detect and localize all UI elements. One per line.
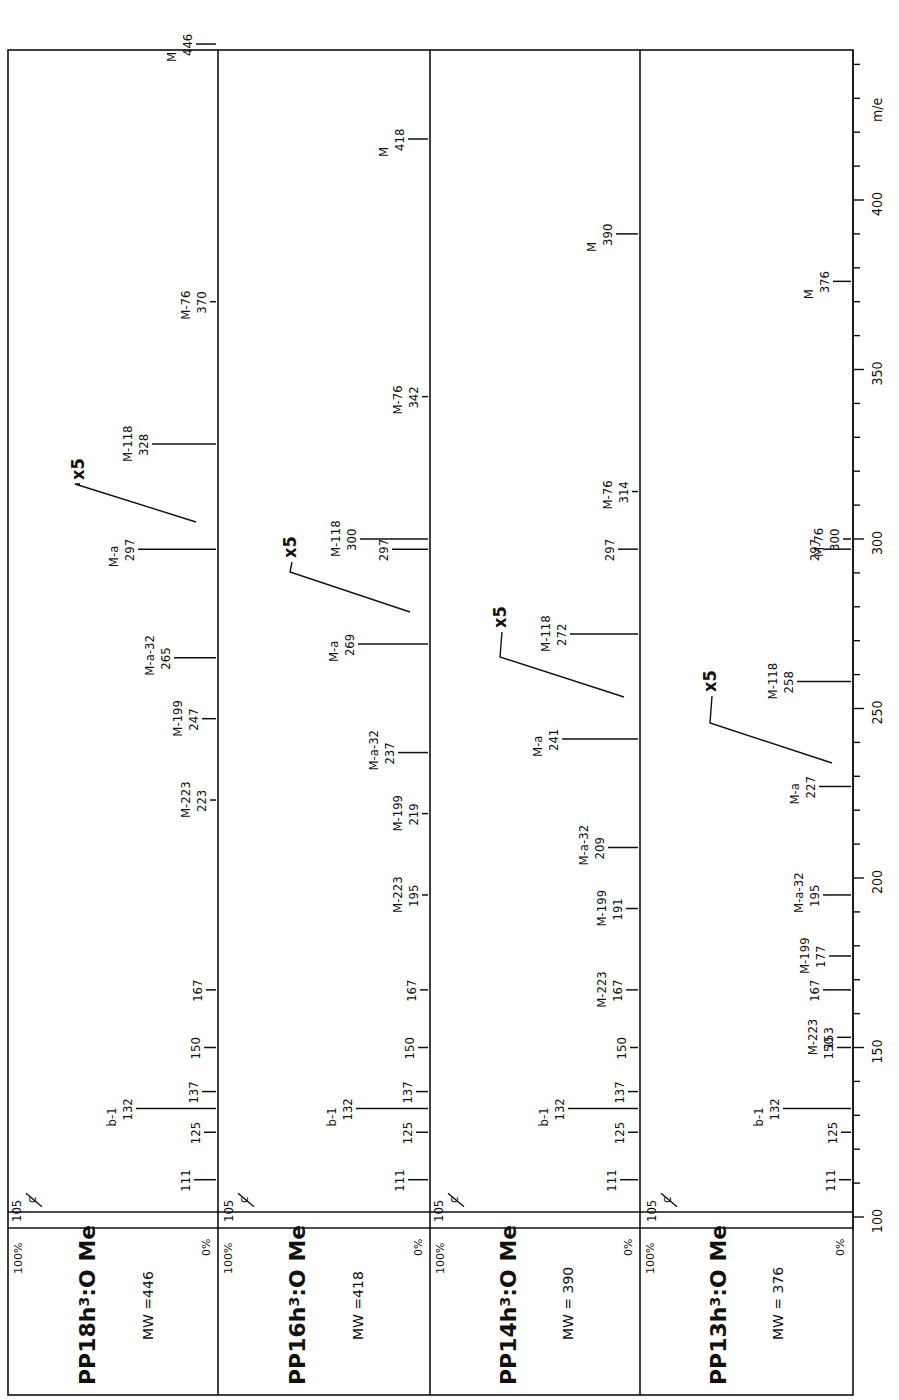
peak-mz-label: 105 bbox=[221, 1200, 236, 1222]
peak-name-label: M-a-32 bbox=[142, 635, 157, 676]
peak-mz-label: 297 bbox=[376, 539, 391, 561]
axis-tick-label: 300 bbox=[869, 531, 885, 555]
peak-name-label: M-76 bbox=[600, 480, 615, 509]
peak-mz-label: 150 bbox=[614, 1037, 629, 1059]
peak-mz-label: 105 bbox=[644, 1200, 659, 1222]
peak-mz-label: 111 bbox=[604, 1169, 619, 1191]
peak-name-label: b-1 bbox=[324, 1107, 339, 1126]
peak-name-label: M bbox=[164, 52, 179, 62]
mw-label-pp13h: MW = 376 bbox=[770, 1267, 786, 1340]
peak-mz-label: 195 bbox=[406, 885, 421, 907]
peak-name-label: M-118 bbox=[120, 425, 135, 462]
peak-mz-label: 137 bbox=[612, 1081, 627, 1103]
peak-name-label: M-199 bbox=[170, 700, 185, 737]
peak-name-label: c bbox=[659, 1197, 674, 1203]
peak-name-label: M-199 bbox=[797, 937, 812, 974]
x5-marker bbox=[710, 696, 832, 763]
pct-bottom-2: 0% bbox=[412, 1239, 425, 1256]
peak-name-label: b-1 bbox=[104, 1107, 119, 1126]
peak-name-label: M-a bbox=[787, 783, 802, 804]
peak-name-label: M-a bbox=[106, 546, 121, 567]
peak-mz-label: 227 bbox=[803, 776, 818, 798]
mw-label-pp16h: MW =418 bbox=[350, 1271, 366, 1340]
mw-value: MW = 390 bbox=[560, 1267, 576, 1340]
panel-label-pp16h: PP16h3:O Me bbox=[285, 1225, 310, 1385]
peak-mz-label: 105 bbox=[9, 1200, 24, 1222]
mass-spectra-figure: 100150200250300350400m/e 105c111125132b-… bbox=[0, 0, 899, 1400]
peak-mz-label: 258 bbox=[781, 671, 796, 693]
axis-tick-label: 100 bbox=[869, 1209, 885, 1233]
axis-title: m/e bbox=[869, 98, 885, 123]
x5-label: x5 bbox=[489, 606, 510, 628]
peak-mz-label: 265 bbox=[158, 647, 173, 669]
mw-value: MW =418 bbox=[350, 1271, 366, 1340]
spectrum-panel-pp14h: 105c111125132b-1137150167M-223191M-19920… bbox=[431, 224, 638, 1222]
peak-name-label: M bbox=[584, 242, 599, 252]
peak-name-label: c bbox=[24, 1197, 39, 1203]
peak-name-label: M-118 bbox=[328, 520, 343, 557]
mw-value: MW = 376 bbox=[770, 1267, 786, 1340]
x5-label: x5 bbox=[279, 536, 300, 558]
peak-name-label: M-223 bbox=[805, 1019, 820, 1056]
spectra-svg: 100150200250300350400m/e 105c111125132b-… bbox=[0, 0, 899, 1400]
peak-mz-label: 328 bbox=[136, 434, 151, 456]
peak-name-label: M-a bbox=[326, 641, 341, 662]
superscript: 3 bbox=[707, 1297, 723, 1307]
peak-name-label: b-1 bbox=[536, 1107, 551, 1126]
pct-bottom-3: 0% bbox=[622, 1239, 635, 1256]
peak-mz-label: 167 bbox=[610, 980, 625, 1002]
peak-mz-label: 297 bbox=[602, 539, 617, 561]
compound-suffix: :O Me bbox=[706, 1225, 731, 1297]
peak-mz-label: 300 bbox=[827, 529, 842, 551]
peak-name-label: M-223 bbox=[594, 971, 609, 1008]
peak-name-label: M-a-32 bbox=[576, 825, 591, 866]
compound-suffix: :O Me bbox=[496, 1225, 521, 1297]
peak-mz-label: 195 bbox=[807, 885, 822, 907]
pct-top-4: 100% bbox=[644, 1243, 657, 1274]
superscript: 3 bbox=[497, 1297, 513, 1307]
peak-mz-label: 125 bbox=[188, 1122, 203, 1144]
x5-marker bbox=[75, 484, 196, 522]
peak-mz-label: 132 bbox=[767, 1098, 782, 1120]
axis-tick-label: 400 bbox=[869, 192, 885, 216]
mw-value: MW =446 bbox=[140, 1271, 156, 1340]
peak-name-label: M-76 bbox=[390, 385, 405, 414]
peak-mz-label: 125 bbox=[612, 1122, 627, 1144]
peak-mz-label: 125 bbox=[400, 1122, 415, 1144]
peak-mz-label: 167 bbox=[807, 980, 822, 1002]
peak-mz-label: 150 bbox=[188, 1037, 203, 1059]
peak-name-label: M-223 bbox=[178, 781, 193, 818]
mw-label-pp18h: MW =446 bbox=[140, 1271, 156, 1340]
peak-mz-label: 237 bbox=[382, 742, 397, 764]
x5-label: x5 bbox=[67, 458, 88, 480]
peak-mz-label: 167 bbox=[190, 980, 205, 1002]
peak-name-label: M-199 bbox=[390, 795, 405, 832]
superscript: 3 bbox=[286, 1297, 302, 1307]
peak-name-label: c bbox=[446, 1197, 461, 1203]
peak-mz-label: 177 bbox=[813, 946, 828, 968]
pct-top-2: 100% bbox=[222, 1243, 235, 1274]
spectrum-panel-pp13h: 105c111125132b-1150153M-223167177M-19919… bbox=[644, 271, 851, 1222]
peak-mz-label: 105 bbox=[431, 1200, 446, 1222]
peak-mz-label: 446 bbox=[180, 34, 195, 56]
peak-mz-label: 300 bbox=[344, 529, 359, 551]
peak-mz-label: 223 bbox=[194, 790, 209, 812]
panel-label-pp18h: PP18h3:O Me bbox=[75, 1225, 100, 1385]
mw-label-pp14h: MW = 390 bbox=[560, 1267, 576, 1340]
peak-mz-label: 219 bbox=[406, 803, 421, 825]
peak-mz-label: 418 bbox=[392, 129, 407, 151]
peak-mz-label: 111 bbox=[823, 1169, 838, 1191]
peak-name-label: M-76 bbox=[178, 290, 193, 319]
compound-suffix: :O Me bbox=[285, 1225, 310, 1297]
peak-name-label: c bbox=[236, 1197, 251, 1203]
axis-tick-label: 200 bbox=[869, 870, 885, 894]
x5-label: x5 bbox=[699, 670, 720, 692]
spectrum-panel-pp18h: 105c111125132b-1137150167223M-223247M-19… bbox=[9, 34, 216, 1222]
peak-name-label: M bbox=[376, 147, 391, 157]
pct-bottom-4: 0% bbox=[834, 1239, 847, 1256]
peak-mz-label: 132 bbox=[340, 1098, 355, 1120]
peak-mz-label: 272 bbox=[554, 624, 569, 646]
peak-mz-label: 209 bbox=[592, 837, 607, 859]
panel-label-pp14h: PP14h3:O Me bbox=[496, 1225, 521, 1385]
mz-axis-labels: 100150200250300350400m/e bbox=[869, 98, 885, 1233]
